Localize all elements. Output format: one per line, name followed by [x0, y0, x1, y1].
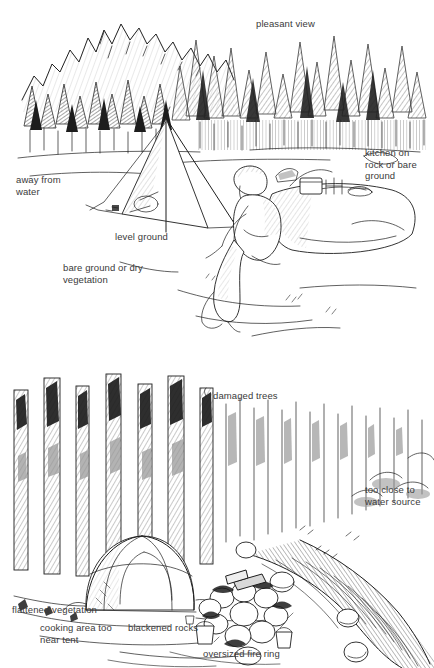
- label-oversized-fire-ring: oversized fire ring: [203, 648, 280, 660]
- label-kitchen-on-rock: kitchen on rock or bare ground: [365, 147, 417, 182]
- conifer-forest-back: [172, 36, 426, 122]
- label-cooking-area-too-near-tent: cooking area too near tent: [40, 622, 112, 645]
- illustration-sheet: pleasant view kitchen on rock or bare gr…: [0, 0, 434, 668]
- large-boulder: [268, 184, 415, 254]
- label-damaged-trees: damaged trees: [213, 390, 278, 402]
- ground: [18, 148, 420, 176]
- label-too-close-to-water-source: too close to water source: [365, 484, 421, 507]
- panel-good-campsite: pleasant view kitchen on rock or bare gr…: [0, 0, 434, 340]
- damaged-tree-trunks: [14, 374, 422, 576]
- label-bare-ground-or-dry-vegetation: bare ground or dry vegetation: [63, 262, 143, 285]
- label-blackened-rocks: blackened rocks: [128, 622, 198, 634]
- panel-poor-campsite: damaged trees too close to water source …: [0, 360, 434, 668]
- label-away-from-water: away from water: [16, 174, 61, 197]
- label-pleasant-view: pleasant view: [256, 18, 315, 30]
- label-flattened-vegetation: flattened vegetation: [12, 604, 97, 616]
- seated-camper: [202, 165, 281, 332]
- foreground-ground: [120, 262, 416, 336]
- label-level-ground: level ground: [115, 231, 168, 243]
